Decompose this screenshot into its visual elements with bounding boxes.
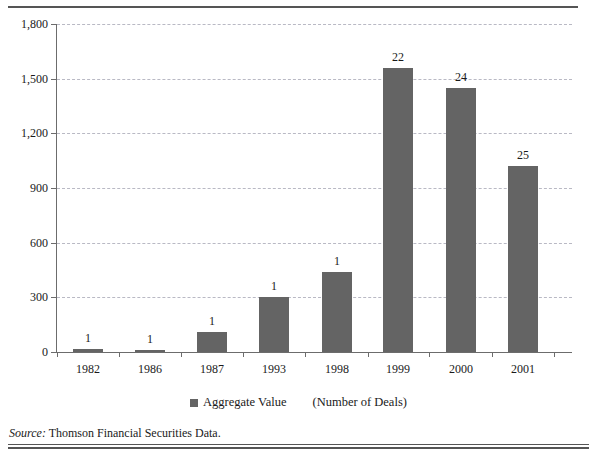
bar-value-label: 25	[517, 149, 529, 161]
bar[interactable]	[259, 297, 289, 352]
y-axis-tick	[51, 79, 57, 80]
bar-value-label: 1	[147, 333, 153, 345]
bar-value-label: 24	[455, 71, 467, 83]
bar[interactable]	[197, 332, 227, 352]
y-axis-tick-label: 1,500	[21, 73, 48, 85]
x-axis-line	[56, 352, 572, 353]
y-axis-tick-label: 900	[30, 182, 48, 194]
x-axis-tick-label: 1999	[386, 363, 410, 376]
bar-value-label: 1	[271, 280, 277, 292]
figure-top-rule	[8, 6, 578, 8]
figure-bottom-rule-thick	[8, 447, 589, 449]
bar-value-label: 1	[334, 255, 340, 267]
y-axis-tick-label: 300	[30, 291, 48, 303]
x-axis-tick	[57, 352, 58, 357]
figure-container: 03006009001,2001,5001,800 11111222425 19…	[0, 0, 597, 453]
gridline	[57, 24, 572, 25]
x-axis-tick-label: 1982	[76, 363, 100, 376]
source-note: Source: Thomson Financial Securities Dat…	[9, 426, 221, 441]
legend-item-label: Aggregate Value	[203, 395, 286, 410]
figure-bottom-rule-thin	[8, 444, 589, 445]
y-axis-tick-label: 1,200	[21, 127, 48, 139]
gridline	[57, 79, 572, 80]
x-axis-tick	[119, 352, 120, 357]
gridline	[57, 133, 572, 134]
x-axis-tick	[368, 352, 369, 357]
bar[interactable]	[446, 88, 476, 352]
bar-value-label: 1	[85, 332, 91, 344]
bar-value-label: 1	[209, 315, 215, 327]
x-axis-tick-label: 1986	[138, 363, 162, 376]
x-axis-tick-label: 2001	[511, 363, 535, 376]
aggregate-value-swatch-icon	[190, 399, 198, 407]
bar[interactable]	[508, 166, 538, 352]
y-axis-tick	[51, 24, 57, 25]
x-axis-tick	[429, 352, 430, 357]
y-axis-tick-label: 1,800	[21, 18, 48, 30]
y-axis-tick	[51, 133, 57, 134]
y-axis-tick-label: 0	[42, 346, 48, 358]
y-axis-tick-label: 600	[30, 237, 48, 249]
x-axis-tick	[181, 352, 182, 357]
x-axis-tick	[305, 352, 306, 357]
y-axis-tick	[51, 243, 57, 244]
gridline	[57, 243, 572, 244]
y-axis-tick	[51, 297, 57, 298]
gridline	[57, 297, 572, 298]
bar-value-label: 22	[392, 51, 404, 63]
x-axis-tick	[492, 352, 493, 357]
bar[interactable]	[383, 68, 413, 352]
bar[interactable]	[73, 349, 103, 352]
bar[interactable]	[322, 272, 352, 352]
source-text: Thomson Financial Securities Data.	[49, 426, 221, 440]
x-axis-tick-label: 1993	[262, 363, 286, 376]
bar[interactable]	[135, 350, 165, 352]
x-axis-tick	[554, 352, 555, 357]
bar-chart-plot-area: 03006009001,2001,5001,800 11111222425 19…	[57, 24, 572, 352]
x-axis-tick-label: 1987	[200, 363, 224, 376]
x-axis-tick-label: 1998	[325, 363, 349, 376]
x-axis-tick-label: 2000	[449, 363, 473, 376]
y-axis-tick	[51, 188, 57, 189]
x-axis-tick	[243, 352, 244, 357]
source-prefix: Source:	[9, 426, 46, 440]
gridline	[57, 188, 572, 189]
legend-note-label: (Number of Deals)	[313, 395, 407, 410]
chart-legend: Aggregate Value (Number of Deals)	[0, 395, 597, 410]
